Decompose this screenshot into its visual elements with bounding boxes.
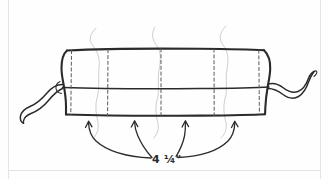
measure-arrow-3-line bbox=[176, 123, 185, 157]
thread-mark-3 bbox=[220, 26, 228, 138]
bolster-body bbox=[62, 49, 271, 116]
left-tie-strand-b bbox=[23, 89, 62, 124]
measure-arrow-2-line bbox=[135, 123, 152, 158]
sketch-page: 4 ¼" bbox=[0, 0, 330, 179]
right-tie-strand-b bbox=[268, 72, 314, 99]
thread-marks-group bbox=[90, 26, 228, 139]
right-drawstring-tie bbox=[268, 71, 317, 98]
body-bottom-edge bbox=[66, 114, 265, 116]
thread-mark-1 bbox=[90, 28, 99, 139]
body-right-end bbox=[264, 50, 270, 114]
left-drawstring-tie bbox=[20, 82, 63, 124]
fold-line-left-edge bbox=[71, 51, 72, 115]
body-left-end bbox=[62, 51, 68, 115]
fold-line-right-edge bbox=[259, 50, 260, 114]
thread-mark-2 bbox=[153, 27, 161, 138]
dimension-label: 4 ¼" bbox=[152, 153, 181, 166]
horizontal-seam-line bbox=[63, 87, 270, 89]
body-top-edge bbox=[67, 49, 264, 51]
sketch-canvas: 4 ¼" bbox=[0, 0, 330, 179]
right-tie-end-fold bbox=[314, 71, 317, 77]
